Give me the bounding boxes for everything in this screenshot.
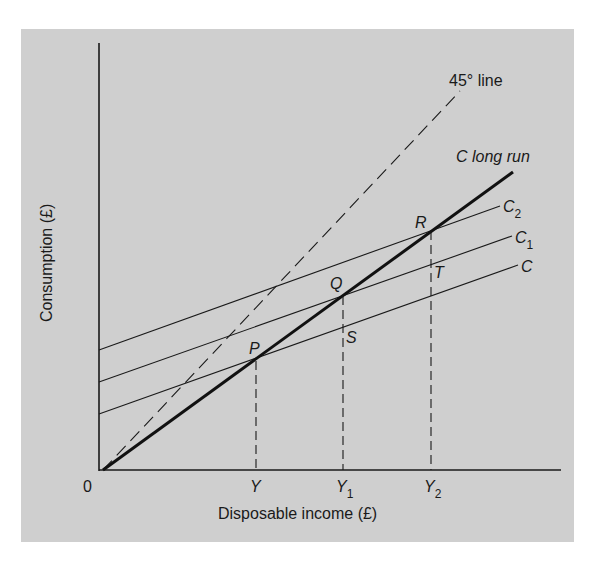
point-s-label: S xyxy=(346,329,357,346)
origin-label: 0 xyxy=(83,478,92,495)
forty-five-line-label: 45° line xyxy=(449,72,503,89)
point-r-label: R xyxy=(415,214,427,231)
c2-line-label: C2 xyxy=(503,198,522,221)
consumption-function-diagram: 45° line C long run C2 C1 C P Q R S T 0 … xyxy=(0,0,599,564)
point-p-label: P xyxy=(249,340,260,357)
long-run-line-label: C long run xyxy=(456,148,530,165)
long-run-consumption-line xyxy=(103,172,513,470)
x-tick-y1: Y1 xyxy=(336,478,354,501)
point-q-label: Q xyxy=(330,275,342,292)
x-axis-title: Disposable income (£) xyxy=(218,505,377,522)
point-t-label: T xyxy=(434,264,445,281)
forty-five-degree-line xyxy=(103,91,460,470)
x-tick-y: Y xyxy=(250,478,262,495)
c1-line-label: C1 xyxy=(515,229,534,252)
x-tick-y2: Y2 xyxy=(424,478,442,501)
y-axis-title: Consumption (£) xyxy=(38,204,55,322)
c-line-label: C xyxy=(521,258,533,275)
short-run-c-line xyxy=(99,265,518,414)
short-run-c1-line xyxy=(99,236,512,382)
